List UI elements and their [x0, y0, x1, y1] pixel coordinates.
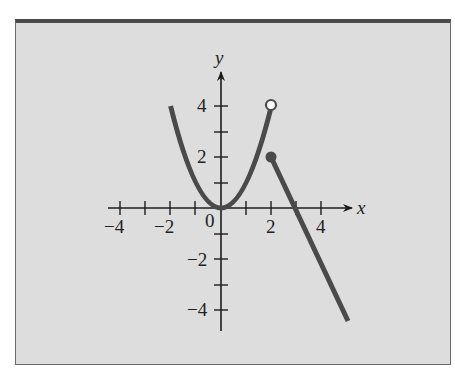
origin-label: 0: [205, 210, 215, 231]
x-tick-label-neg4: −4: [104, 216, 125, 237]
y-tick-label-4: 4: [197, 95, 207, 116]
y-tick-label-2: 2: [197, 146, 207, 167]
y-axis-label: y: [213, 47, 224, 68]
x-tick-label-4: 4: [316, 216, 326, 237]
x-axis-label: x: [356, 197, 366, 218]
y-tick-label-neg4: −4: [187, 299, 208, 320]
piecewise-graph: x y −4 −2 0 2 4 4 2 −2 −4: [0, 0, 455, 375]
y-tick-label-neg2: −2: [187, 249, 207, 270]
x-tick-label-2: 2: [266, 216, 276, 237]
filled-endpoint-marker: [266, 152, 277, 163]
open-endpoint-marker: [266, 100, 276, 110]
linear-segment: [271, 157, 348, 321]
x-tick-label-neg2: −2: [154, 216, 174, 237]
